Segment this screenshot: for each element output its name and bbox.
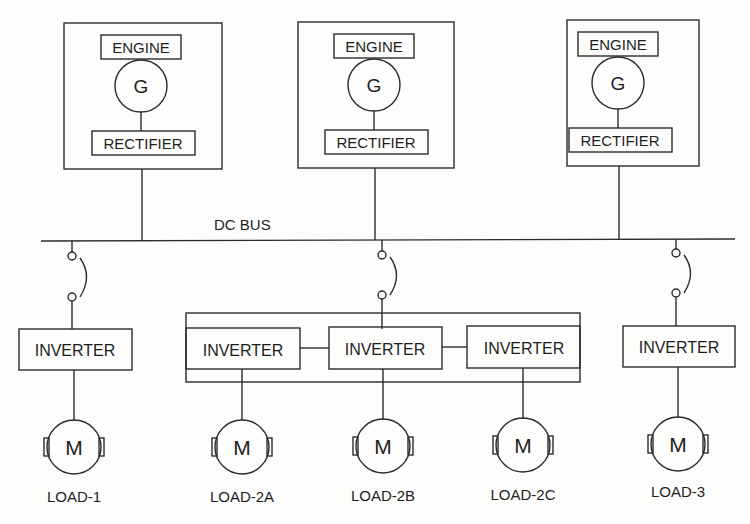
engine-label: ENGINE	[589, 36, 647, 53]
load-label: LOAD-2C	[490, 486, 555, 503]
generator-set-2: ENGINE G RECTIFIER	[298, 22, 454, 240]
load-label: LOAD-2B	[351, 487, 415, 504]
generator-set-1: ENGINE G RECTIFIER	[64, 23, 222, 241]
switch-contact-icon	[68, 293, 76, 301]
switch-contact-icon	[378, 291, 386, 299]
switch-contact-icon	[672, 249, 680, 257]
generator-symbol: G	[611, 73, 626, 94]
inverter-label: INVERTER	[639, 339, 720, 356]
motor-symbol: M	[374, 435, 392, 458]
motor-symbol: M	[65, 436, 83, 459]
engine-label: ENGINE	[112, 39, 170, 56]
inverter-label: INVERTER	[345, 341, 426, 358]
breaker-switch-2	[378, 240, 397, 329]
motor-load-3: M LOAD-3	[648, 417, 708, 500]
engine-label: ENGINE	[345, 38, 403, 55]
generator-symbol: G	[367, 75, 382, 96]
rectifier-label: RECTIFIER	[580, 132, 659, 149]
motor-load-2c: M LOAD-2C	[490, 418, 555, 503]
inverter-label: INVERTER	[484, 340, 565, 357]
motor-load-1: M LOAD-1	[44, 420, 104, 505]
motor-symbol: M	[669, 433, 687, 456]
inverter-label: INVERTER	[203, 342, 284, 359]
switch-arc-icon	[80, 258, 87, 297]
inverter-1: INVERTER	[19, 329, 132, 420]
switch-contact-icon	[378, 251, 386, 259]
load-label: LOAD-1	[47, 488, 101, 505]
load-label: LOAD-2A	[210, 488, 274, 505]
generator-symbol: G	[134, 76, 149, 97]
breaker-switch-3	[672, 239, 691, 326]
switch-contact-icon	[68, 252, 76, 260]
generator-set-3: ENGINE G RECTIFIER	[567, 20, 699, 239]
switch-arc-icon	[684, 255, 691, 293]
motor-symbol: M	[514, 434, 532, 457]
breaker-switch-1	[68, 241, 87, 329]
switch-arc-icon	[390, 257, 397, 295]
dc-bus-label: DC BUS	[214, 216, 271, 233]
motor-symbol: M	[233, 436, 251, 459]
motor-load-2b: M LOAD-2B	[351, 419, 415, 504]
rectifier-label: RECTIFIER	[103, 135, 182, 152]
switch-contact-icon	[672, 289, 680, 297]
power-system-diagram: ENGINE G RECTIFIER ENGINE G RECTIFIER EN…	[0, 0, 750, 524]
inverter-group: INVERTER INVERTER INVERTER	[186, 313, 580, 420]
motor-load-2a: M LOAD-2A	[210, 420, 274, 505]
inverter-5: INVERTER	[623, 326, 735, 418]
rectifier-label: RECTIFIER	[336, 134, 415, 151]
dc-bus-line	[41, 239, 735, 241]
load-label: LOAD-3	[651, 483, 705, 500]
inverter-label: INVERTER	[35, 342, 116, 359]
